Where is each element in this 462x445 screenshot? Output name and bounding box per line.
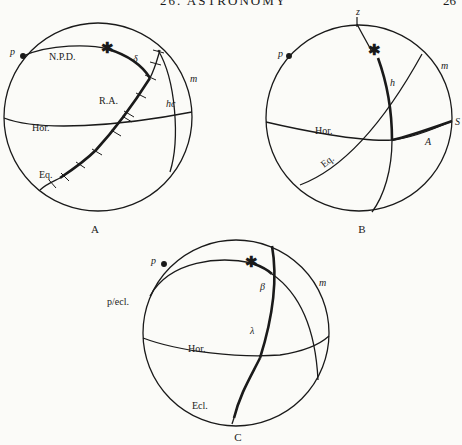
caption-a: A	[91, 223, 99, 235]
label-ecliptic-c: Ecl.	[192, 400, 208, 411]
figure-a: ✱	[4, 23, 192, 211]
label-npd-a: N.P.D.	[49, 51, 75, 62]
caption-c: C	[234, 431, 241, 443]
label-horizon-c: Hor.	[188, 343, 206, 354]
horizon-c	[143, 336, 329, 356]
label-meridian-a: m	[190, 73, 197, 84]
declination-arc-a	[108, 49, 150, 78]
ecliptic-thick-c	[234, 358, 260, 418]
pole-dot-icon	[287, 54, 292, 59]
azimuth-arc-b	[392, 121, 452, 140]
label-pole-ecliptic-c: p/ecl.	[107, 296, 129, 307]
figure-c: ✱	[143, 240, 329, 426]
star-icon: ✱	[245, 254, 258, 270]
label-equator-a: Eq.	[39, 169, 53, 180]
label-beta-c: β	[259, 281, 265, 292]
label-meridian-b: m	[441, 60, 448, 71]
label-pole-c: p	[150, 255, 156, 266]
label-altitude-b: h	[390, 77, 395, 88]
label-south-b: S	[455, 116, 460, 127]
label-lambda-c: λ	[249, 325, 255, 336]
hour-circle-a	[158, 50, 175, 172]
equator-b	[300, 54, 422, 185]
label-zenith-b: z	[355, 6, 360, 17]
sphere-outline-b	[266, 25, 452, 211]
label-horizon-a: Hor.	[32, 122, 50, 133]
pole-dot-icon	[162, 262, 167, 267]
label-horizon-b: Hor.	[315, 125, 333, 136]
label-pole-a: p	[9, 46, 15, 57]
altitude-arc-b	[378, 58, 392, 140]
label-azimuth-b: A	[424, 136, 432, 147]
figure-b: ✱	[266, 17, 452, 212]
label-meridian-c: m	[319, 277, 326, 288]
ecliptic-c	[232, 418, 234, 424]
label-hour-circle-a: hc	[166, 98, 176, 109]
label-ra-a: R.A.	[99, 95, 118, 106]
star-icon: ✱	[101, 40, 114, 56]
star-icon: ✱	[368, 42, 381, 58]
pole-dot-icon	[21, 54, 26, 59]
caption-b: B	[358, 223, 365, 235]
secondary-arc-c	[272, 274, 318, 380]
longitude-arc-c	[260, 246, 274, 358]
vertical-circle-b	[372, 140, 392, 212]
celestial-sphere-figures: ✱ ✱	[0, 0, 462, 445]
sphere-outline-c	[143, 240, 329, 426]
label-delta-a: δ	[133, 53, 138, 64]
label-pole-b: p	[277, 48, 283, 59]
